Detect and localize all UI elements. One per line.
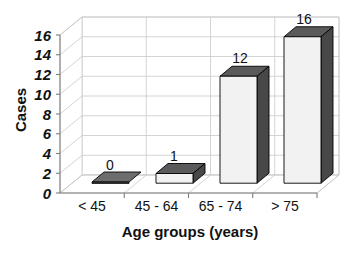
y-tick-label-4: 4	[42, 145, 52, 162]
x-tick-label-3: > 75	[271, 198, 299, 214]
bar-data-label-3: 16	[296, 11, 312, 27]
y-tick-label-10: 10	[34, 86, 51, 103]
bar-chart: 0 2 4 6 8 10 12 14 16 0 1	[0, 0, 355, 256]
bar-data-label-2: 12	[232, 50, 248, 66]
x-tick-label-1: 45 - 64	[135, 198, 179, 214]
y-tick-label-16: 16	[34, 27, 51, 44]
y-tick-label-14: 14	[34, 46, 51, 63]
chart-canvas: 0 2 4 6 8 10 12 14 16 0 1	[0, 0, 355, 256]
y-tick-label-12: 12	[34, 66, 51, 83]
x-tick-label-0: < 45	[78, 198, 106, 214]
y-axis-title: Cases	[12, 88, 29, 132]
bar-front-face-1[interactable]	[156, 174, 193, 184]
y-tick-labels: 0 2 4 6 8 10 12 14 16	[34, 27, 51, 202]
y-axis-ticks	[56, 35, 60, 193]
bar-data-label-0: 0	[106, 157, 114, 173]
x-tick-labels: < 45 45 - 64 65 - 74 > 75	[78, 198, 299, 214]
y-tick-label-0: 0	[43, 185, 52, 202]
bar-group-2[interactable]: 12	[220, 50, 269, 183]
bar-front-face-2[interactable]	[220, 76, 257, 183]
x-tick-label-2: 65 - 74	[199, 198, 243, 214]
y-tick-label-2: 2	[42, 165, 52, 182]
y-tick-label-6: 6	[43, 125, 52, 142]
y-tick-label-8: 8	[43, 106, 52, 123]
bar-data-label-1: 1	[170, 148, 178, 164]
bar-side-face-2[interactable]	[257, 66, 269, 183]
bar-front-face-3[interactable]	[284, 37, 321, 183]
bar-group-3[interactable]: 16	[284, 11, 333, 184]
bar-side-face-3[interactable]	[321, 27, 333, 183]
bar-front-face-0[interactable]	[92, 182, 129, 184]
x-axis-title: Age groups (years)	[122, 223, 259, 240]
